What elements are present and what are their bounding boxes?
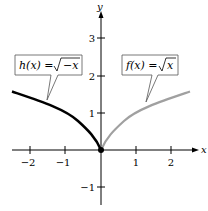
x-tick-label: −2 <box>21 157 36 168</box>
y-tick-label: 1 <box>89 108 95 119</box>
y-axis-label: y <box>96 1 103 12</box>
x-tick-label: −1 <box>56 157 71 168</box>
x-tick-label: 1 <box>133 157 139 168</box>
origin-point <box>98 147 104 153</box>
y-tick-label: 2 <box>89 71 95 82</box>
x-axis-label: x <box>201 144 207 155</box>
f-curve <box>101 92 190 151</box>
f-label: f(x) = <box>125 59 158 72</box>
h-curve <box>12 92 101 151</box>
y-tick-label: −1 <box>80 182 95 193</box>
y-tick-label: 3 <box>89 33 95 44</box>
plot-area: x y −2 −1 1 2 3 2 1 −1 h(x) = −x f(x) = … <box>0 0 208 211</box>
h-radicand: −x <box>63 59 79 72</box>
y-arrow-icon <box>99 11 104 18</box>
h-label: h(x) = <box>19 59 54 72</box>
chart: x y −2 −1 1 2 3 2 1 −1 h(x) = −x f(x) = … <box>0 0 208 211</box>
f-radicand: x <box>167 59 174 72</box>
x-tick-label: 2 <box>168 157 174 168</box>
x-arrow-icon <box>192 148 199 153</box>
